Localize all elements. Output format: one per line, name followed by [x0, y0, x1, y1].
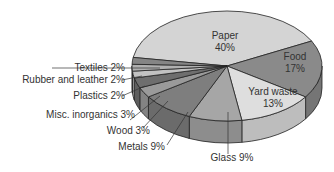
label-misc-inorganics: Misc. inorganics 3% — [46, 109, 135, 120]
label-rubber-leather: Rubber and leather 2% — [22, 74, 125, 85]
pie-chart: Paper 40% Food 17% Yard waste 13% Glass … — [0, 0, 334, 172]
label-wood: Wood 3% — [107, 125, 150, 136]
label-paper-value: 40% — [215, 42, 235, 53]
label-metals: Metals 9% — [118, 141, 165, 152]
label-glass: Glass 9% — [211, 152, 254, 163]
label-plastics: Plastics 2% — [73, 90, 125, 101]
label-textiles: Textiles 2% — [74, 62, 125, 73]
label-food-value: 17% — [285, 63, 305, 74]
label-paper-name: Paper — [212, 30, 239, 41]
label-food-name: Food — [284, 51, 307, 62]
label-yard-value: 13% — [263, 98, 283, 109]
label-yard-name: Yard waste — [248, 86, 298, 97]
